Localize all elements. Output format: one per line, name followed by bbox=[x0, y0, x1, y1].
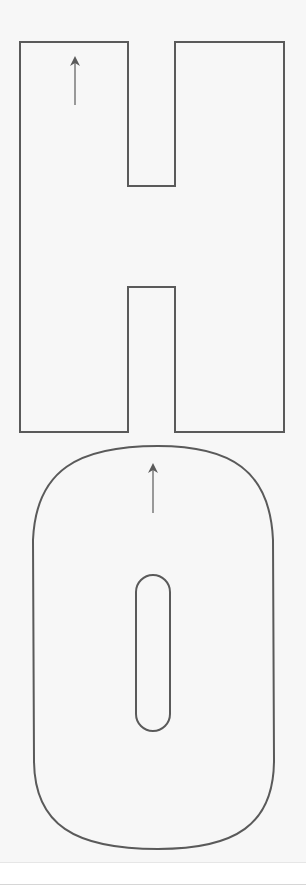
tracing-canvas: Letter tracing outlines for the word HO … bbox=[0, 0, 306, 862]
footer-strip bbox=[0, 863, 306, 884]
arrow-up-icon bbox=[70, 56, 80, 105]
letter-o-inner-slot bbox=[136, 575, 170, 731]
letter-h-outline bbox=[20, 42, 284, 432]
divider bbox=[0, 884, 306, 885]
arrow-up-icon bbox=[148, 463, 158, 513]
tracing-figure bbox=[0, 0, 306, 862]
